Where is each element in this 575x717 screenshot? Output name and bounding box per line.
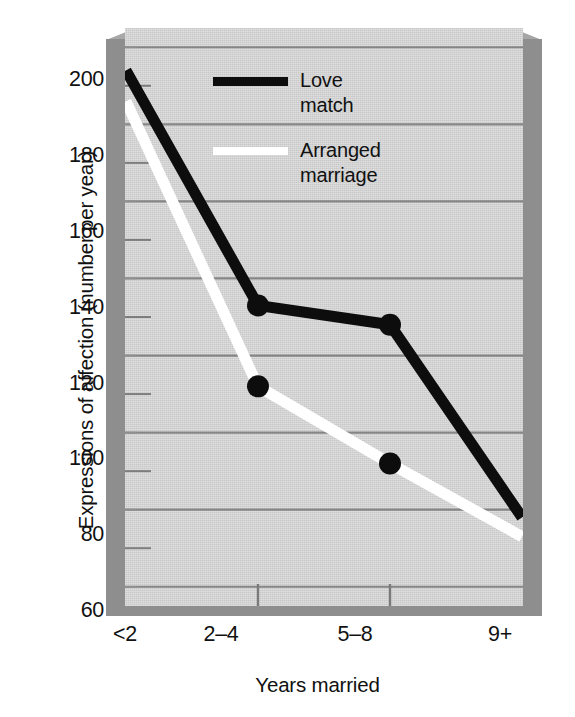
plot-box-side-left	[106, 39, 125, 616]
y-tick-label-60: 60	[4, 598, 104, 623]
legend-label-love-match: Love match	[300, 68, 353, 118]
legend-swatch-arranged-marriage	[213, 147, 288, 155]
legend-item-love-match: Love match	[213, 68, 353, 118]
legend-label-arranged-marriage: Arranged marriage	[300, 138, 381, 188]
y-tick-label-140: 140	[4, 295, 104, 320]
x-tick-label-5-8: 5–8	[310, 622, 400, 647]
x-tick-label-lt2: <2	[80, 622, 170, 647]
y-tick-label-120: 120	[4, 371, 104, 396]
y-tick-label-180: 180	[4, 143, 104, 168]
y-tick-label-100: 100	[4, 446, 104, 471]
chart-figure: Expressions of affection (number per yea…	[0, 0, 575, 717]
x-tick-label-9plus: 9+	[455, 622, 545, 647]
plot-area: Love match Arranged marriage	[125, 28, 523, 606]
x-tick-label-2-4: 2–4	[176, 622, 266, 647]
y-tick-label-160: 160	[4, 219, 104, 244]
y-tick-label-200: 200	[4, 67, 104, 92]
plot-box-side-right	[523, 39, 542, 616]
y-tick-label-80: 80	[4, 522, 104, 547]
legend-item-arranged-marriage: Arranged marriage	[213, 138, 381, 188]
legend-swatch-love-match	[213, 77, 288, 86]
x-axis-title: Years married	[125, 673, 510, 697]
y-axis-tick-labels: 200 180 160 140 120 100 80 60	[0, 0, 104, 717]
